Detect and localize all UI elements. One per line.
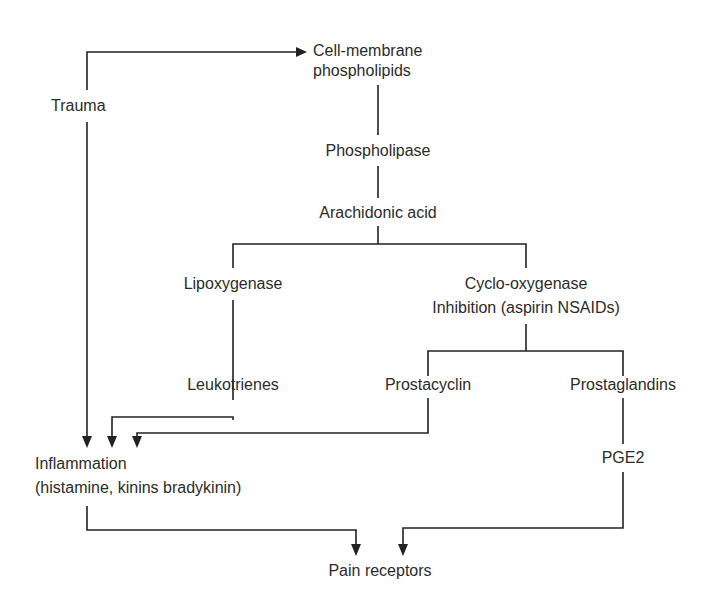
node-prostaglandins-label: Prostaglandins	[570, 376, 676, 393]
edge-inflammation-to-pain	[87, 506, 356, 546]
node-cell-membrane-phospholipids: Cell-membrane phospholipids	[313, 40, 422, 82]
node-lipoxygenase: Lipoxygenase	[184, 273, 283, 295]
node-prostacyclin: Prostacyclin	[385, 374, 471, 396]
node-pain-receptors-label: Pain receptors	[328, 562, 431, 579]
node-pge2-label: PGE2	[602, 449, 645, 466]
node-lipoxygenase-label: Lipoxygenase	[184, 275, 283, 292]
node-prostaglandins: Prostaglandins	[570, 374, 676, 396]
arrowhead-right-icon	[296, 47, 307, 57]
arrowhead-down-icon	[351, 544, 361, 556]
node-cell-membrane-line1: Cell-membrane	[313, 40, 422, 62]
node-cell-membrane-line2: phospholipids	[313, 60, 422, 82]
node-arachidonic-acid: Arachidonic acid	[319, 202, 436, 224]
node-cyclo-oxygenase-line2: Inhibition (aspirin NSAIDs)	[432, 297, 620, 319]
node-pge2: PGE2	[602, 447, 645, 469]
edge-prostacyclin-to-inflammation	[137, 398, 428, 438]
node-phospholipase-label: Phospholipase	[326, 142, 431, 159]
pain-pathway-diagram: Trauma Cell-membrane phospholipids Phosp…	[0, 0, 714, 609]
node-inflammation-line1: Inflammation	[35, 453, 241, 475]
arrowhead-down-icon	[132, 436, 142, 448]
node-inflammation-line2: (histamine, kinins bradykinin)	[35, 477, 241, 499]
node-prostacyclin-label: Prostacyclin	[385, 376, 471, 393]
node-trauma: Trauma	[51, 95, 106, 117]
node-phospholipase: Phospholipase	[326, 140, 431, 162]
edge-arachidonic-branch	[233, 244, 526, 268]
edge-leukotrienes-to-inflammation	[112, 417, 233, 438]
arrowhead-down-icon	[398, 544, 408, 556]
node-trauma-label: Trauma	[51, 97, 106, 114]
node-leukotrienes: Leukotrienes	[187, 374, 279, 396]
arrowhead-down-icon	[107, 436, 117, 448]
edge-pge2-to-pain	[403, 472, 623, 546]
node-inflammation: Inflammation (histamine, kinins bradykin…	[35, 453, 241, 499]
node-pain-receptors: Pain receptors	[328, 560, 431, 582]
node-arachidonic-acid-label: Arachidonic acid	[319, 204, 436, 221]
arrowhead-down-icon	[82, 436, 92, 448]
node-cyclo-oxygenase: Cyclo-oxygenase Inhibition (aspirin NSAI…	[432, 273, 620, 319]
node-leukotrienes-label: Leukotrienes	[187, 376, 279, 393]
node-cyclo-oxygenase-line1: Cyclo-oxygenase	[432, 273, 620, 295]
edge-cox-branch	[428, 351, 623, 376]
edge-trauma-to-membrane	[87, 52, 298, 90]
